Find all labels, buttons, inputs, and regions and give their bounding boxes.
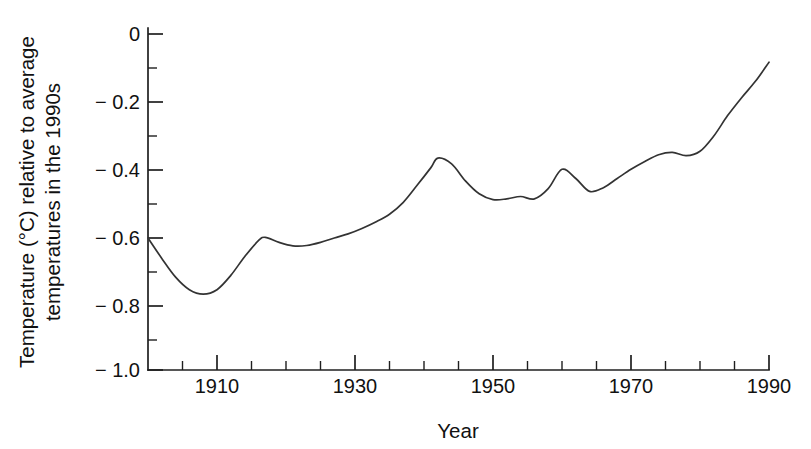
y-tick-label-2: − 0.4 (95, 159, 140, 181)
temperature-anomaly-chart-figure: Temperature (°C) relative to average tem… (0, 0, 811, 449)
y-axis-title: Temperature (°C) relative to average tem… (15, 36, 64, 368)
x-tick-label-1: 1930 (333, 375, 378, 397)
x-tick-label-0: 1910 (195, 375, 240, 397)
y-tick-label-1: − 0.2 (95, 91, 140, 113)
y-axis-title-line-2: temperatures in the 1990s (41, 83, 64, 321)
y-axis-title-line-1: Temperature (°C) relative to average (15, 36, 38, 368)
y-tick-label-3: − 0.6 (95, 227, 140, 249)
y-tick-label-4: − 0.8 (95, 295, 140, 317)
x-axis-title: Year (437, 419, 479, 442)
x-axis-ticks (183, 355, 770, 370)
x-tick-label-4: 1990 (747, 375, 792, 397)
y-tick-label-0: 0 (129, 23, 140, 45)
chart-canvas: Temperature (°C) relative to average tem… (0, 0, 811, 449)
x-tick-label-2: 1950 (471, 375, 516, 397)
x-tick-label-3: 1970 (609, 375, 654, 397)
y-tick-label-5: − 1.0 (95, 359, 140, 381)
temperature-anomaly-series-line (148, 62, 769, 294)
y-axis-ticks (148, 34, 163, 370)
y-axis-tick-labels: 0 − 0.2 − 0.4 − 0.6 − 0.8 − 1.0 (95, 23, 140, 381)
x-axis-tick-labels: 1910 1930 1950 1970 1990 (195, 375, 792, 397)
